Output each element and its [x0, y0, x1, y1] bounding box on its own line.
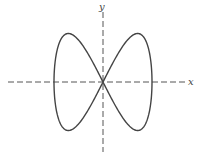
y-axis-label: y [98, 1, 105, 12]
x-axis-label: x [188, 76, 194, 87]
diagram-canvas: x y [0, 0, 202, 154]
